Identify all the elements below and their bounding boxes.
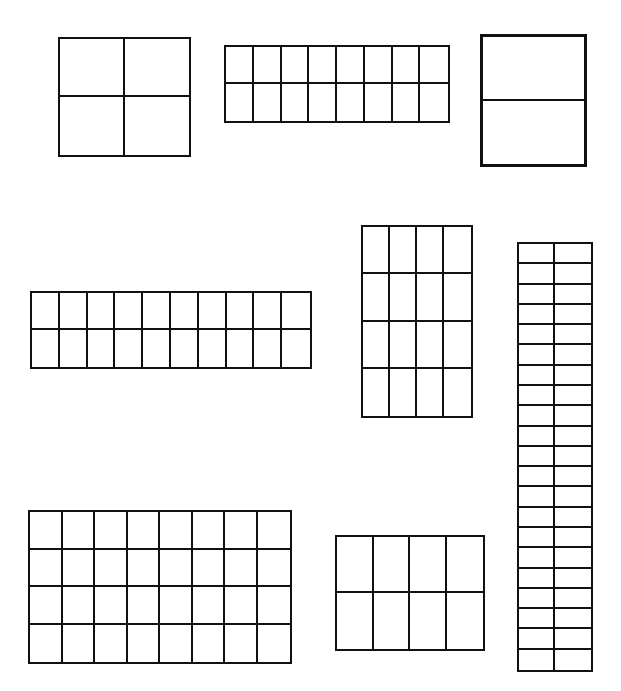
grid-cell (337, 47, 365, 84)
grid-cell (555, 629, 591, 649)
grid-cell (555, 548, 591, 568)
grid-cell (555, 487, 591, 507)
grid-cell (519, 345, 555, 365)
grid-cell (63, 512, 96, 550)
grid-cell (483, 101, 584, 165)
grid-cell (337, 84, 365, 121)
grid-cell (30, 550, 63, 588)
grid-cell (95, 512, 128, 550)
grid-cell (519, 386, 555, 406)
grid-cell (32, 293, 60, 330)
grid-d: 2 by 10 grid (30, 291, 312, 369)
grid-cell (160, 550, 193, 588)
grid-cell (447, 593, 484, 649)
grid-cell (374, 537, 411, 593)
grid-cell (444, 322, 471, 369)
grid-cell (32, 330, 60, 367)
grid-cell (60, 293, 88, 330)
grid-cell (393, 47, 421, 84)
grid-cell (95, 587, 128, 625)
grid-cell (95, 625, 128, 663)
grid-cell (193, 587, 226, 625)
grid-cell (519, 305, 555, 325)
grid-cell (390, 227, 417, 274)
grid-cell (363, 227, 390, 274)
grid-cell (225, 587, 258, 625)
grid-cell (254, 47, 282, 84)
grid-cell (258, 512, 291, 550)
grid-cell (420, 47, 448, 84)
grid-cell (519, 487, 555, 507)
grid-cell (227, 330, 255, 367)
grid-cell (309, 84, 337, 121)
grid-cell (225, 512, 258, 550)
grid-cell (226, 47, 254, 84)
grid-cell (365, 84, 393, 121)
grid-cell (143, 330, 171, 367)
grid-cell (410, 593, 447, 649)
grid-cell (226, 84, 254, 121)
grid-cell (171, 330, 199, 367)
grid-cell (60, 330, 88, 367)
grid-cell (282, 84, 310, 121)
grid-cell (115, 293, 143, 330)
grid-cell (555, 650, 591, 670)
grid-cell (410, 537, 447, 593)
grid-cell (254, 293, 282, 330)
grid-cell (365, 47, 393, 84)
grid-cell (193, 550, 226, 588)
grid-cell (555, 406, 591, 426)
grid-cell (337, 537, 374, 593)
grid-b: 2 by 8 grid (224, 45, 450, 123)
grid-a: 2 by 2 grid (58, 37, 191, 157)
grid-cell (519, 467, 555, 487)
grid-cell (555, 325, 591, 345)
grid-cell (483, 37, 584, 101)
grid-cell (555, 244, 591, 264)
grid-cell (390, 274, 417, 321)
grid-cell (337, 593, 374, 649)
grid-cell (88, 330, 116, 367)
grid-cell (193, 625, 226, 663)
grid-g: 4 by 8 grid (28, 510, 292, 664)
grid-cell (444, 369, 471, 416)
grid-cell (199, 330, 227, 367)
grid-cell (555, 264, 591, 284)
grid-cell (519, 285, 555, 305)
grid-cell (95, 550, 128, 588)
grid-cell (519, 366, 555, 386)
grid-cell (199, 293, 227, 330)
grid-cell (420, 84, 448, 121)
grid-cell (363, 274, 390, 321)
grid-c: 2 by 1 grid (480, 34, 587, 167)
grid-cell (447, 537, 484, 593)
grid-cell (63, 550, 96, 588)
grid-cell (374, 593, 411, 649)
grid-cell (128, 550, 161, 588)
grid-cell (519, 569, 555, 589)
grid-cell (555, 386, 591, 406)
grid-cell (519, 629, 555, 649)
grid-cell (128, 625, 161, 663)
grid-cell (63, 625, 96, 663)
grid-cell (115, 330, 143, 367)
grid-cell (519, 508, 555, 528)
grid-cell (519, 650, 555, 670)
grid-cell (60, 97, 125, 155)
grid-cell (254, 84, 282, 121)
grid-cell (60, 39, 125, 97)
grid-cell (254, 330, 282, 367)
grid-cell (393, 84, 421, 121)
grid-cell (417, 274, 444, 321)
grid-cell (519, 406, 555, 426)
grid-cell (555, 569, 591, 589)
grid-cell (258, 625, 291, 663)
grid-cell (519, 447, 555, 467)
grid-cell (444, 227, 471, 274)
grid-cell (444, 274, 471, 321)
grid-cell (519, 609, 555, 629)
grid-cell (30, 512, 63, 550)
grid-cell (88, 293, 116, 330)
grid-h: 2 by 4 grid (335, 535, 485, 651)
grid-cell (417, 227, 444, 274)
